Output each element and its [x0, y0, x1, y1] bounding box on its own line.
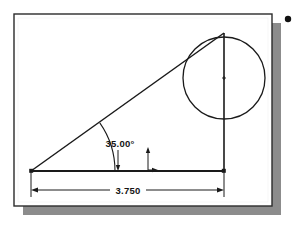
technical-drawing-svg: 35.00° 3.750: [0, 0, 297, 228]
linear-dimension-text: 3.750: [116, 185, 141, 196]
angle-dimension-text: 35.00°: [106, 138, 135, 149]
page-sheet: [14, 14, 272, 206]
drawing-canvas: 35.00° 3.750: [0, 0, 297, 228]
bullet-dot-icon: [285, 16, 291, 22]
